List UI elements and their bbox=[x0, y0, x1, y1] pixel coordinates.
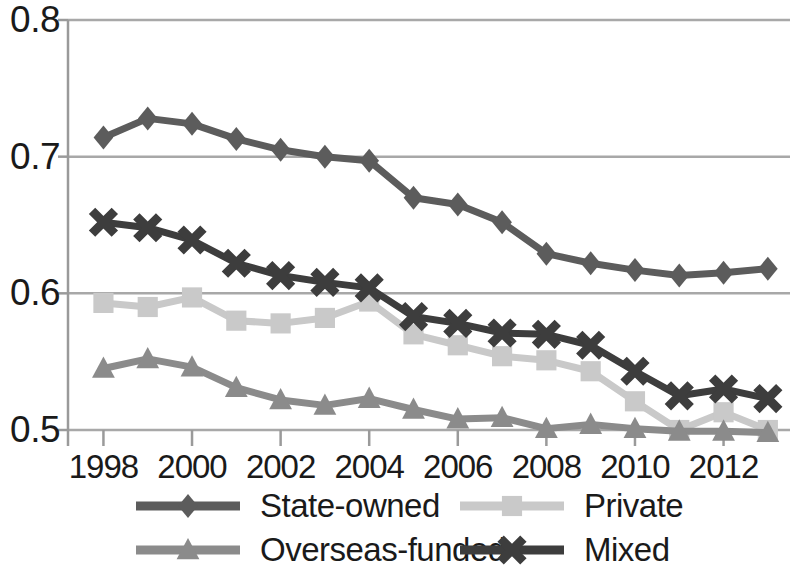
data-point-marker bbox=[93, 293, 113, 313]
x-tick-label: 2010 bbox=[587, 450, 683, 483]
y-tick-label: 0.6 bbox=[0, 274, 60, 311]
x-tick-label: 2004 bbox=[321, 450, 417, 483]
x-tick-label: 2008 bbox=[498, 450, 594, 483]
legend-label: Private bbox=[584, 488, 683, 524]
data-point-marker bbox=[138, 297, 158, 317]
data-point-marker bbox=[581, 361, 601, 381]
data-point-marker bbox=[758, 257, 778, 281]
data-point-marker bbox=[315, 308, 335, 328]
data-point-marker bbox=[713, 402, 733, 422]
y-tick-label: 0.8 bbox=[0, 1, 60, 38]
data-point-marker bbox=[271, 138, 291, 162]
data-point-marker bbox=[492, 346, 512, 366]
y-tick-label: 0.5 bbox=[0, 411, 60, 448]
series-state-owned bbox=[94, 106, 778, 287]
x-tick-label: 2012 bbox=[676, 450, 772, 483]
x-tick-label: 2006 bbox=[410, 450, 506, 483]
data-point-marker bbox=[536, 350, 556, 370]
data-point-marker bbox=[315, 145, 335, 169]
legend-swatch-cross-icon bbox=[452, 530, 572, 570]
legend-swatch-triangle-icon bbox=[128, 530, 248, 570]
x-tick-label: 1998 bbox=[55, 450, 151, 483]
data-point-marker bbox=[182, 112, 202, 136]
data-point-marker bbox=[138, 106, 158, 130]
gridlines bbox=[68, 20, 790, 430]
data-point-marker bbox=[226, 127, 246, 151]
x-tick-label: 2000 bbox=[144, 450, 240, 483]
data-point-marker bbox=[178, 494, 198, 518]
line-chart: 0.80.70.60.5 199820002002200420062008201… bbox=[0, 0, 796, 570]
data-point-marker bbox=[625, 258, 645, 282]
legend-label: State-owned bbox=[260, 488, 440, 524]
series-line bbox=[103, 118, 767, 275]
legend-swatch-square-icon bbox=[452, 486, 572, 526]
y-tick-label: 0.7 bbox=[0, 138, 60, 175]
legend-swatch-diamond-icon bbox=[128, 486, 248, 526]
data-point-marker bbox=[669, 264, 689, 288]
data-point-marker bbox=[271, 313, 291, 333]
chart-legend: State-ownedPrivateOverseas-fundedMixed bbox=[0, 484, 796, 570]
data-point-marker bbox=[502, 496, 522, 516]
data-point-marker bbox=[448, 335, 468, 355]
data-point-marker bbox=[624, 360, 647, 383]
data-point-marker bbox=[226, 311, 246, 331]
data-point-marker bbox=[581, 251, 601, 275]
data-point-marker bbox=[625, 391, 645, 411]
series-mixed bbox=[92, 211, 779, 410]
data-point-marker bbox=[94, 126, 114, 150]
data-point-marker bbox=[714, 261, 734, 285]
x-tick-label: 2002 bbox=[233, 450, 329, 483]
legend-label: Mixed bbox=[584, 532, 670, 568]
data-point-marker bbox=[448, 193, 468, 217]
data-point-marker bbox=[182, 287, 202, 307]
